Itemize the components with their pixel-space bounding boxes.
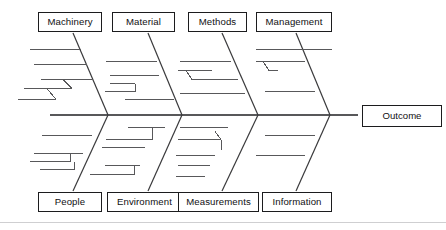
tertiary-management-a [263, 62, 269, 71]
fishbone-diagram: Machinery Material Methods Management Pe… [0, 0, 446, 230]
sub-bones-machinery [18, 50, 93, 100]
category-label-machinery: Machinery [47, 17, 92, 27]
category-box-material[interactable]: Material [112, 12, 175, 32]
category-label-measurements: Measurements [186, 197, 251, 207]
category-box-management[interactable]: Management [256, 12, 332, 32]
category-box-environment[interactable]: Environment [107, 192, 182, 212]
category-label-material: Material [126, 17, 161, 27]
category-label-environment: Environment [117, 197, 172, 207]
sub-bones-material [105, 62, 174, 100]
tertiary-measurements-a [215, 132, 221, 140]
category-box-methods[interactable]: Methods [188, 12, 247, 32]
bone-machinery [73, 33, 108, 115]
sub-bones-measurements [176, 128, 228, 177]
bone-environment [148, 115, 182, 191]
category-box-measurements[interactable]: Measurements [178, 192, 259, 212]
category-label-people: People [55, 197, 85, 207]
category-box-information[interactable]: Information [262, 192, 332, 212]
bone-management [296, 33, 330, 115]
sub-bones-information [256, 136, 315, 156]
bone-information [296, 115, 330, 191]
category-label-information: Information [272, 197, 321, 207]
sub-bones-environment [90, 128, 165, 175]
bone-methods [222, 33, 258, 115]
bone-material [148, 33, 182, 115]
outcome-box[interactable]: Outcome [362, 105, 442, 127]
tertiary-methods-a [186, 71, 192, 80]
sub-bones-methods [178, 62, 245, 94]
bottom-bones-group [73, 115, 330, 191]
category-label-management: Management [266, 17, 323, 27]
tertiary-machinery-a [63, 80, 72, 89]
category-box-people[interactable]: People [38, 192, 102, 212]
bone-measurements [222, 115, 258, 191]
tertiary-machinery-b [47, 89, 56, 100]
category-box-machinery[interactable]: Machinery [38, 12, 102, 32]
top-bones-group [73, 33, 330, 115]
sub-bones-management [256, 50, 332, 92]
category-label-methods: Methods [199, 17, 237, 27]
sub-bones-people [30, 136, 92, 170]
outcome-label: Outcome [383, 111, 422, 121]
